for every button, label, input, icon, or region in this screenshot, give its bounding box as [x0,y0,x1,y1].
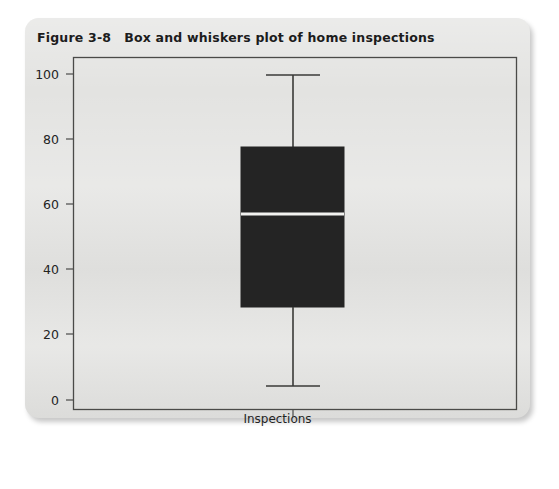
y-axis-tick-labels: 100 80 60 40 20 0 [35,67,59,408]
y-tick-label-20: 20 [43,327,59,342]
box-plot-svg: 100 80 60 40 20 0 [25,18,530,418]
y-axis-ticks [66,74,73,400]
y-tick-label-60: 60 [43,197,59,212]
y-tick-label-40: 40 [43,262,59,277]
figure-panel: Figure 3-8Box and whiskers plot of home … [25,18,530,418]
figure-number: Figure 3-8 [37,30,111,45]
figure-caption-text: Box and whiskers plot of home inspection… [124,30,434,45]
box-plot-container: 100 80 60 40 20 0 [25,18,530,418]
y-tick-label-0: 0 [51,393,59,408]
boxplot-inspections [241,75,344,386]
box-iqr [241,147,344,307]
figure-caption: Figure 3-8Box and whiskers plot of home … [37,30,435,45]
y-tick-label-80: 80 [43,132,59,147]
y-tick-label-100: 100 [35,67,59,82]
